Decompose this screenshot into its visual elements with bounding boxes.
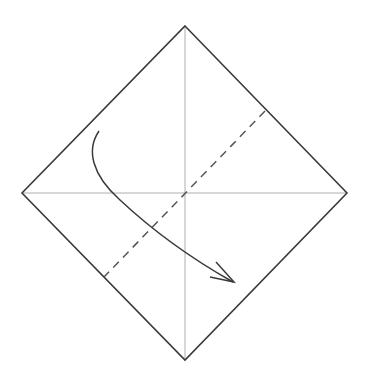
arrowhead-icon	[210, 262, 234, 282]
origami-diagram	[0, 0, 373, 371]
fold-arrow-icon	[92, 131, 233, 282]
